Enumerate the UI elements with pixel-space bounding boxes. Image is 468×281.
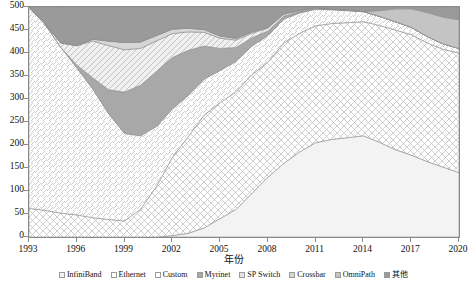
y-tick-label: 400 bbox=[10, 47, 24, 57]
legend-swatch-icon bbox=[335, 272, 341, 278]
legend-swatch-icon bbox=[197, 272, 203, 278]
x-tick-label: 2005 bbox=[210, 244, 229, 254]
legend-item[interactable]: Crossbar bbox=[289, 270, 325, 279]
y-tick-label: 500 bbox=[10, 1, 24, 11]
legend-item[interactable]: InfiniBand bbox=[59, 270, 102, 279]
y-tick-label: 100 bbox=[10, 185, 24, 195]
x-tick-label: 2014 bbox=[353, 244, 372, 254]
y-tick-label: 450 bbox=[10, 24, 24, 34]
legend-swatch-icon bbox=[59, 272, 65, 278]
x-tick-label: 2020 bbox=[449, 244, 468, 254]
legend-item[interactable]: Custom bbox=[155, 270, 188, 279]
x-tick-mark bbox=[28, 238, 29, 242]
x-tick-mark bbox=[267, 238, 268, 242]
legend-item[interactable]: 其他 bbox=[384, 270, 408, 279]
x-tick-mark bbox=[410, 238, 411, 242]
y-tick-label: 350 bbox=[10, 70, 24, 80]
y-tick-label: 250 bbox=[10, 116, 24, 126]
y-tick-label: 150 bbox=[10, 162, 24, 172]
x-tick-mark bbox=[458, 238, 459, 242]
legend-swatch-icon bbox=[239, 272, 245, 278]
x-tick-label: 2017 bbox=[401, 244, 420, 254]
x-tick-label: 2002 bbox=[162, 244, 181, 254]
x-tick-label: 1996 bbox=[66, 244, 85, 254]
legend-item[interactable]: OmniPath bbox=[335, 270, 375, 279]
plot-area bbox=[28, 6, 460, 238]
legend-item[interactable]: Myrinet bbox=[197, 270, 231, 279]
y-tick-label: 50 bbox=[15, 208, 25, 218]
legend-label: InfiniBand bbox=[67, 270, 102, 279]
legend-label: OmniPath bbox=[343, 270, 375, 279]
legend-label: Crossbar bbox=[297, 270, 325, 279]
legend-label: Custom bbox=[163, 270, 188, 279]
legend-item[interactable]: Ethernet bbox=[111, 270, 146, 279]
x-tick-mark bbox=[124, 238, 125, 242]
legend-label: 其他 bbox=[392, 270, 408, 279]
plot-series-svg bbox=[29, 7, 459, 237]
chart-legend: InfiniBandEthernetCustomMyrinetSP Switch… bbox=[0, 270, 467, 281]
x-tick-label: 1999 bbox=[114, 244, 133, 254]
y-tick-label: 200 bbox=[10, 139, 24, 149]
x-tick-mark bbox=[76, 238, 77, 242]
legend-swatch-icon bbox=[111, 272, 117, 278]
x-tick-mark bbox=[219, 238, 220, 242]
legend-label: Myrinet bbox=[205, 270, 231, 279]
x-tick-label: 1993 bbox=[19, 244, 38, 254]
legend-item[interactable]: SP Switch bbox=[239, 270, 280, 279]
legend-label: Ethernet bbox=[119, 270, 146, 279]
x-tick-label: 2011 bbox=[305, 244, 324, 254]
y-tick-label: 300 bbox=[10, 93, 24, 103]
x-axis-title: 年份 bbox=[0, 254, 467, 266]
legend-swatch-icon bbox=[289, 272, 295, 278]
x-tick-label: 2008 bbox=[257, 244, 276, 254]
legend-label: SP Switch bbox=[247, 270, 280, 279]
x-tick-mark bbox=[171, 238, 172, 242]
y-axis: 050100150200250300350400450500 bbox=[0, 0, 28, 244]
legend-swatch-icon bbox=[155, 272, 161, 278]
legend-swatch-icon bbox=[384, 272, 390, 278]
x-tick-mark bbox=[315, 238, 316, 242]
x-tick-mark bbox=[362, 238, 363, 242]
